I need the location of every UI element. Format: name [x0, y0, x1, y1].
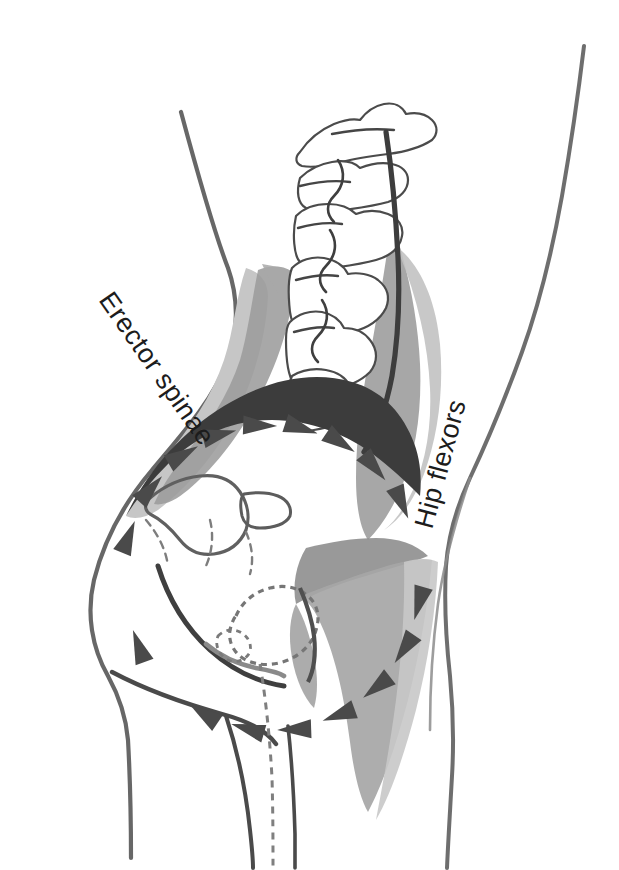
posterior-thigh-line [226, 716, 253, 868]
erector-spinae-label: Erector spinae [93, 286, 221, 450]
rotation-arrowhead [124, 627, 153, 665]
vertebra-L1 [296, 103, 436, 166]
femoral-shaft-line [260, 664, 273, 868]
illustration-canvas: Erector spinae Hip flexors [0, 0, 619, 870]
anatomical-figure: Erector spinae Hip flexors [0, 0, 619, 870]
rotation-arrowhead [184, 696, 223, 731]
iliac-fossa-detail [146, 520, 252, 574]
rotation-arrowhead [277, 719, 312, 739]
body-outline-anterior [445, 46, 584, 868]
inner-thigh-line [288, 726, 295, 868]
lesser-trochanter [217, 630, 251, 662]
